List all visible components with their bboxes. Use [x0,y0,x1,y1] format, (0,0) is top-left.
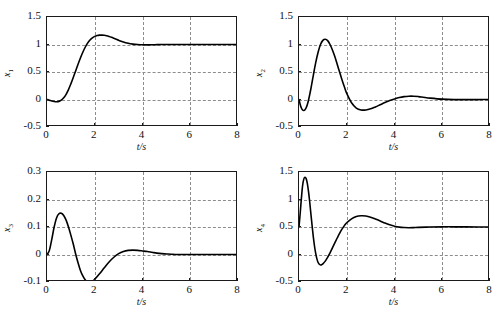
y-tick-label: 0 [256,93,293,104]
x-tick-label: 6 [179,284,199,295]
plot-area [46,171,237,281]
x-tick-label: 2 [336,129,356,140]
y-tick-mark [298,199,301,200]
x-tick-mark [394,278,395,281]
y-tick-mark [298,44,301,45]
x-tick-label: 4 [384,284,404,295]
x-tick-mark [237,278,238,281]
x-tick-mark [189,278,190,281]
y-tick-label: 0 [4,248,41,259]
y-tick-mark [298,71,301,72]
y-axis-label: x1 [2,62,16,84]
x-tick-mark [46,278,47,281]
x-tick-label: 2 [84,284,104,295]
data-curve-x1 [47,35,237,102]
x-tick-label: 4 [384,129,404,140]
x-tick-mark [189,123,190,126]
y-tick-mark [46,199,49,200]
x-tick-mark [298,278,299,281]
y-tick-mark [46,44,49,45]
y-tick-mark [46,171,49,172]
figure-canvas: -0.500.511.502468t/sx1-0.500.511.502468t… [0,0,503,311]
data-curve-x2 [299,39,489,110]
subplot-x3: -0.100.10.20.302468t/sx3 [0,155,251,310]
subplot-x2: -0.500.511.502468t/sx2 [252,0,503,155]
x-tick-label: 2 [336,284,356,295]
x-tick-mark [142,123,143,126]
x-tick-label: 8 [227,284,247,295]
y-tick-mark [46,126,49,127]
x-tick-mark [489,278,490,281]
x-tick-label: 0 [36,129,56,140]
x-tick-label: 2 [84,129,104,140]
x-tick-label: 0 [36,284,56,295]
y-tick-mark [46,99,49,100]
x-tick-mark [94,278,95,281]
x-axis-label: t/s [46,297,237,307]
x-tick-mark [142,278,143,281]
x-axis-label: t/s [298,297,489,307]
y-tick-label: 1 [4,38,41,49]
y-tick-mark [46,226,49,227]
x-tick-mark [441,123,442,126]
data-curve-x4 [299,177,489,265]
x-tick-label: 8 [479,129,499,140]
y-axis-label: x4 [254,217,268,239]
data-curve-x3 [47,213,237,281]
y-tick-label: 0.3 [4,165,41,176]
y-axis-label: x3 [2,217,16,239]
subplot-x1: -0.500.511.502468t/sx1 [0,0,251,155]
x-tick-label: 4 [132,129,152,140]
y-tick-label: 1 [256,193,293,204]
x-axis-label: t/s [46,142,237,152]
y-tick-mark [298,126,301,127]
y-tick-mark [46,71,49,72]
y-tick-mark [298,99,301,100]
curve-layer [47,172,237,281]
plot-area [46,16,237,126]
x-tick-mark [94,123,95,126]
x-tick-mark [346,278,347,281]
x-tick-label: 4 [132,284,152,295]
x-tick-mark [394,123,395,126]
x-tick-mark [46,123,47,126]
y-tick-mark [298,171,301,172]
x-axis-label: t/s [298,142,489,152]
x-tick-label: 0 [288,129,308,140]
x-tick-label: 8 [479,284,499,295]
x-tick-mark [441,278,442,281]
y-tick-mark [46,254,49,255]
curve-layer [299,172,489,281]
curve-layer [47,17,237,126]
y-tick-mark [298,226,301,227]
x-tick-label: 6 [431,284,451,295]
y-tick-label: 1.5 [256,165,293,176]
y-tick-label: 0 [4,93,41,104]
x-tick-label: 6 [179,129,199,140]
y-axis-label: x2 [254,62,268,84]
x-tick-mark [489,123,490,126]
plot-area [298,171,489,281]
x-tick-mark [298,123,299,126]
x-tick-mark [237,123,238,126]
y-tick-mark [298,281,301,282]
y-tick-label: 1 [256,38,293,49]
x-tick-label: 8 [227,129,247,140]
y-tick-label: 1.5 [4,10,41,21]
y-tick-mark [46,16,49,17]
y-tick-mark [298,254,301,255]
x-tick-label: 6 [431,129,451,140]
x-tick-mark [346,123,347,126]
plot-area [298,16,489,126]
y-tick-mark [46,281,49,282]
subplot-x4: -0.500.511.502468t/sx4 [252,155,503,310]
y-tick-label: 0.2 [4,193,41,204]
y-tick-mark [298,16,301,17]
y-tick-label: 0 [256,248,293,259]
x-tick-label: 0 [288,284,308,295]
curve-layer [299,17,489,126]
y-tick-label: 1.5 [256,10,293,21]
